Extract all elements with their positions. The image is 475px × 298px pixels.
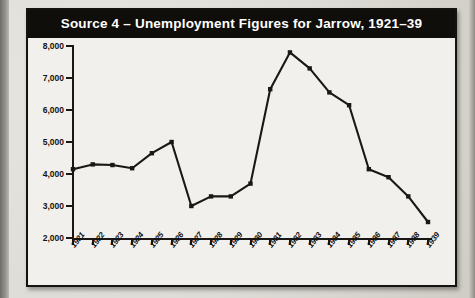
data-point-marker [91,162,95,166]
data-point-marker [367,167,371,171]
data-point-marker [150,151,154,155]
data-point-marker [110,163,114,167]
data-point-marker [130,166,134,170]
data-point-marker [229,194,233,198]
data-point-marker [268,87,272,91]
data-point-marker [71,167,75,171]
data-point-marker [307,66,311,70]
series-line [73,52,428,222]
scanned-page: Source 4 – Unemployment Figures for Jarr… [0,0,475,298]
plot-area: 2,0003,0004,0005,0006,0007,0008,000 1921… [28,38,451,283]
data-point-marker [248,181,252,185]
data-point-marker [406,194,410,198]
data-point-marker [426,220,430,224]
page-gutter-left [0,0,9,298]
data-point-marker [347,103,351,107]
chart-title-bar: Source 4 – Unemployment Figures for Jarr… [28,10,455,38]
page-gutter-right [469,0,475,298]
data-point-marker [288,50,292,54]
data-point-marker [386,175,390,179]
chart-figure: Source 4 – Unemployment Figures for Jarr… [26,8,457,287]
page-title: Source 4 – Unemployment Figures for Jarr… [61,16,423,31]
line-series [28,38,451,283]
data-point-marker [169,140,173,144]
data-point-marker [209,194,213,198]
data-point-marker [327,90,331,94]
data-point-marker [189,204,193,208]
